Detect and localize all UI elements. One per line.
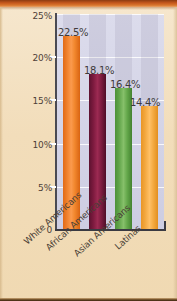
chart-page: 25% 20% 15% 10% 5% 0 22.5% 18.1% 16.4% 1… [0,0,177,301]
y-tick-label-15: 15% [8,96,52,106]
y-tick-label-10: 10% [8,140,52,150]
y-axis-line [55,13,57,231]
data-label-latinas: 14.4% [130,97,160,108]
bar-fill-3 [141,106,158,230]
bar-latinas[interactable] [141,106,158,230]
x-axis-category-labels: White Americans African Americans Asian … [0,232,177,301]
y-tick-label-25: 25% [8,11,52,21]
data-label-white-americans: 22.5% [58,27,88,38]
y-tick-label-5: 5% [8,183,52,193]
y-tick-label-20: 20% [8,53,52,63]
x-axis-end-tick [164,221,166,231]
data-label-asian-americans: 16.4% [110,79,140,90]
data-label-african-americans: 18.1% [84,65,114,76]
